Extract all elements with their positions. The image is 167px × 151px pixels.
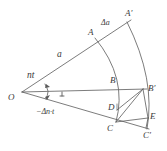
label-point-D: D <box>108 103 115 112</box>
segment-D-Bprime <box>117 89 143 110</box>
label-point-C-prime: C′ <box>143 131 151 140</box>
label-angle-nt: nt <box>27 71 34 81</box>
label-delta-a: Δa <box>101 19 110 27</box>
label-origin: O <box>8 93 15 102</box>
label-point-E: E <box>150 112 156 121</box>
label-point-A-prime: A′ <box>125 9 132 18</box>
label-point-B: B <box>110 76 116 85</box>
label-radius-a: a <box>57 50 62 60</box>
label-point-A: A <box>88 28 94 37</box>
label-point-C: C <box>107 124 113 133</box>
figure-canvas <box>0 0 167 151</box>
segment-Bprime-E <box>143 89 148 118</box>
ray-horizontal-line <box>22 89 147 92</box>
geometry-figure: O nt −Δn·t a Δa A A′ B B′ D C E C′ <box>0 0 167 151</box>
label-angle-delta-nt: −Δn·t <box>36 108 54 116</box>
label-point-B-prime: B′ <box>148 84 155 93</box>
segment-C-Bprime <box>116 89 143 122</box>
segment-C-E <box>116 118 148 122</box>
arc-outer <box>127 22 149 129</box>
